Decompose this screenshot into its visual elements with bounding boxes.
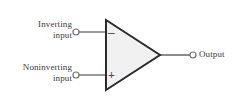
inverting-input-label-line1: Inverting: [14, 19, 72, 30]
noninverting-plus-sign: +: [108, 69, 115, 81]
noninverting-input-label-line2: input: [2, 73, 72, 84]
inverting-input-label-line2: input: [14, 30, 72, 41]
inverting-input-label: Inverting input: [14, 19, 72, 40]
output-terminal: [190, 52, 196, 58]
opamp-diagram-canvas: – + Inverting input Noninverting input O…: [0, 0, 242, 110]
noninverting-input-label-line1: Noninverting: [2, 62, 72, 73]
noninverting-input-terminal: [73, 72, 79, 78]
inverting-minus-sign: –: [108, 25, 115, 38]
output-label-text: Output: [199, 49, 225, 60]
output-label: Output: [199, 49, 225, 60]
inverting-input-terminal: [73, 29, 79, 35]
noninverting-input-label: Noninverting input: [2, 62, 72, 83]
